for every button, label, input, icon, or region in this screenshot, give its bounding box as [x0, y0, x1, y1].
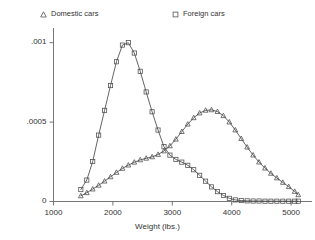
x-tick-label-4000: 4000 — [212, 208, 252, 217]
x-axis-title: Weight (lbs.) — [0, 222, 315, 231]
x-tick-label-5000: 5000 — [271, 208, 311, 217]
y-tick-label-001: .001 — [0, 37, 47, 46]
x-tick-label-3000: 3000 — [152, 208, 192, 217]
y-tick-label-0: 0 — [0, 196, 47, 205]
x-tick-label-1000: 1000 — [34, 208, 74, 217]
kernel-density-chart: Domestic cars Foreign cars .001 .0005 0 … — [0, 0, 315, 240]
y-tick-label-0005: .0005 — [0, 117, 47, 126]
plot-area — [0, 0, 315, 240]
x-tick-label-2000: 2000 — [93, 208, 133, 217]
